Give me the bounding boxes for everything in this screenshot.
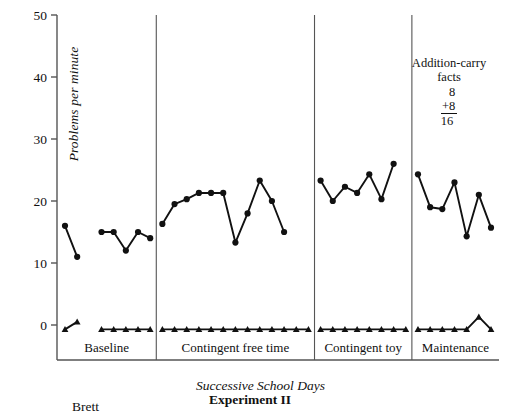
y-axis-tick-label: 10: [34, 256, 48, 271]
phase-label-3: Contingent toy: [324, 340, 402, 355]
sum-value: 16: [441, 114, 458, 128]
subject-name: Brett: [72, 399, 99, 415]
data-point-correct: [74, 254, 80, 260]
data-point-correct: [269, 198, 275, 204]
addend-two: +8: [441, 99, 458, 114]
data-point-correct: [354, 190, 360, 196]
data-point-correct: [318, 177, 324, 183]
data-point-correct: [111, 229, 117, 235]
y-axis-tick-label: 30: [34, 132, 48, 147]
data-point-correct: [196, 190, 202, 196]
addend-one: 8: [441, 85, 458, 99]
data-point-correct: [220, 190, 226, 196]
phase-label-2: Contingent free time: [182, 340, 290, 355]
data-series-group: [62, 161, 495, 332]
y-axis-tick-label: 40: [34, 70, 48, 85]
data-point-correct: [488, 225, 494, 231]
data-point-correct: [244, 210, 250, 216]
data-point-correct: [342, 184, 348, 190]
arithmetic-problem: 8 +8 16: [441, 85, 458, 128]
data-point-correct: [184, 196, 190, 202]
data-point-correct: [439, 206, 445, 212]
data-point-correct: [366, 171, 372, 177]
data-point-correct: [330, 198, 336, 204]
phase-divider-group: [156, 15, 412, 360]
data-point-correct: [451, 179, 457, 185]
data-point-correct: [147, 235, 153, 241]
series-path: [65, 226, 77, 257]
data-point-correct: [232, 239, 238, 245]
data-point-correct: [476, 192, 482, 198]
data-point-correct: [62, 223, 68, 229]
data-point-correct: [427, 204, 433, 210]
experiment-title: Experiment II: [209, 392, 291, 408]
condition-annotation: Addition-carry facts 8 +8 16: [396, 56, 502, 128]
data-point-correct: [159, 221, 165, 227]
annotation-line-2: facts: [396, 70, 502, 84]
data-point-error: [74, 319, 81, 325]
y-axis-title: Problems per minute: [66, 24, 82, 184]
annotation-line-1: Addition-carry: [396, 56, 502, 70]
phase-label-4: Maintenance: [422, 340, 489, 355]
y-axis-tick-label: 50: [34, 8, 48, 23]
series-path: [162, 181, 284, 243]
phase-label-1: Baseline: [84, 340, 129, 355]
data-point-correct: [281, 229, 287, 235]
data-point-correct: [135, 229, 141, 235]
data-point-error: [475, 314, 482, 320]
data-point-correct: [391, 161, 397, 167]
data-point-correct: [464, 233, 470, 239]
figure-experiment-ii: Problems per minute 50403020100 Baseline…: [0, 0, 505, 419]
data-point-correct: [208, 190, 214, 196]
data-point-correct: [378, 196, 384, 202]
data-point-correct: [257, 177, 263, 183]
y-axis-tick-label: 20: [34, 194, 48, 209]
data-point-correct: [171, 201, 177, 207]
data-point-correct: [98, 229, 104, 235]
data-point-correct: [123, 248, 129, 254]
y-axis-tick-label: 0: [40, 318, 47, 333]
data-point-correct: [415, 171, 421, 177]
phase-label-group: BaselineContingent free timeContingent t…: [84, 340, 489, 355]
